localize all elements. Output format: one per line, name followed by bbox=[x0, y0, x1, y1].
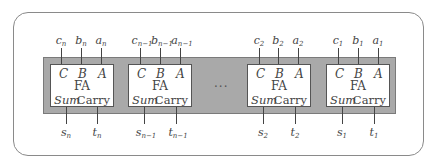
full-adder-box: C B A FA Sum Carry bbox=[326, 64, 390, 107]
carry-output-label: Carry bbox=[155, 93, 188, 107]
wire-sum-out bbox=[342, 107, 343, 124]
carry-output-label: Carry bbox=[353, 93, 386, 107]
input-a-label: a2 bbox=[292, 34, 303, 48]
wire-b-in bbox=[358, 48, 359, 64]
wire-sum-out bbox=[144, 107, 145, 124]
output-t-label: t2 bbox=[291, 126, 300, 140]
input-b-label: bn−1 bbox=[151, 34, 173, 48]
wire-carry-out bbox=[295, 107, 296, 124]
full-adder-box: C B A FA Sum Carry bbox=[247, 64, 311, 107]
wire-carry-out bbox=[374, 107, 375, 124]
wire-a-in bbox=[101, 48, 102, 64]
wire-b-in bbox=[278, 48, 279, 64]
input-c-label: cn bbox=[56, 34, 67, 48]
output-s-label: s1 bbox=[337, 126, 347, 140]
output-s-label: sn−1 bbox=[136, 126, 156, 140]
output-t-label: tn bbox=[93, 126, 102, 140]
fa-title: FA bbox=[129, 79, 191, 93]
wire-sum-out bbox=[263, 107, 264, 124]
wire-b-in bbox=[160, 48, 161, 64]
wire-a-in bbox=[298, 48, 299, 64]
output-s-label: sn bbox=[61, 126, 71, 140]
wire-sum-out bbox=[66, 107, 67, 124]
fa-title: FA bbox=[248, 79, 310, 93]
output-t-label: tn−1 bbox=[168, 126, 187, 140]
wire-b-in bbox=[81, 48, 82, 64]
input-b-label: b2 bbox=[272, 34, 284, 48]
wire-c-in bbox=[61, 48, 62, 64]
input-a-label: an−1 bbox=[171, 34, 192, 48]
wire-a-in bbox=[378, 48, 379, 64]
output-s-label: s2 bbox=[258, 126, 268, 140]
wire-c-in bbox=[338, 48, 339, 64]
wire-carry-out bbox=[97, 107, 98, 124]
wire-a-in bbox=[180, 48, 181, 64]
input-a-label: a1 bbox=[372, 34, 383, 48]
wire-c-in bbox=[259, 48, 260, 64]
input-a-label: an bbox=[95, 34, 106, 48]
fa-title: FA bbox=[51, 79, 113, 93]
full-adder-box: C B A FA Sum Carry bbox=[50, 64, 114, 107]
ellipsis: ··· bbox=[214, 80, 228, 94]
carry-output-label: Carry bbox=[77, 93, 110, 107]
input-c-label: c1 bbox=[333, 34, 344, 48]
input-b-label: bn bbox=[75, 34, 87, 48]
wire-carry-out bbox=[176, 107, 177, 124]
carry-output-label: Carry bbox=[274, 93, 307, 107]
wire-c-in bbox=[140, 48, 141, 64]
fa-title: FA bbox=[327, 79, 389, 93]
input-c-label: c2 bbox=[254, 34, 265, 48]
input-b-label: b1 bbox=[352, 34, 364, 48]
output-t-label: t1 bbox=[370, 126, 379, 140]
input-c-label: cn−1 bbox=[132, 34, 153, 48]
full-adder-box: C B A FA Sum Carry bbox=[128, 64, 192, 107]
